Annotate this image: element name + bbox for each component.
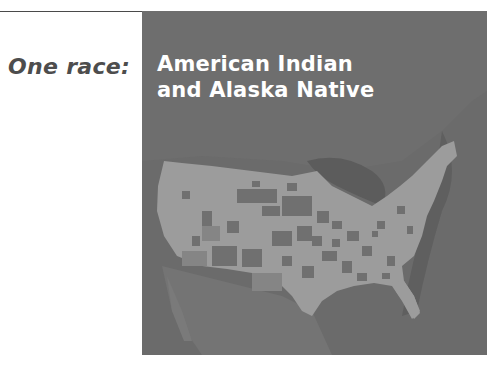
map-title: American Indian and Alaska Native bbox=[157, 51, 374, 103]
top-rule bbox=[0, 11, 142, 12]
race-category-label: One race: bbox=[8, 54, 130, 79]
map-title-line-2: and Alaska Native bbox=[157, 77, 374, 103]
map-title-line-1: American Indian bbox=[157, 51, 374, 77]
choropleth-map: American Indian and Alaska Native bbox=[142, 11, 487, 355]
